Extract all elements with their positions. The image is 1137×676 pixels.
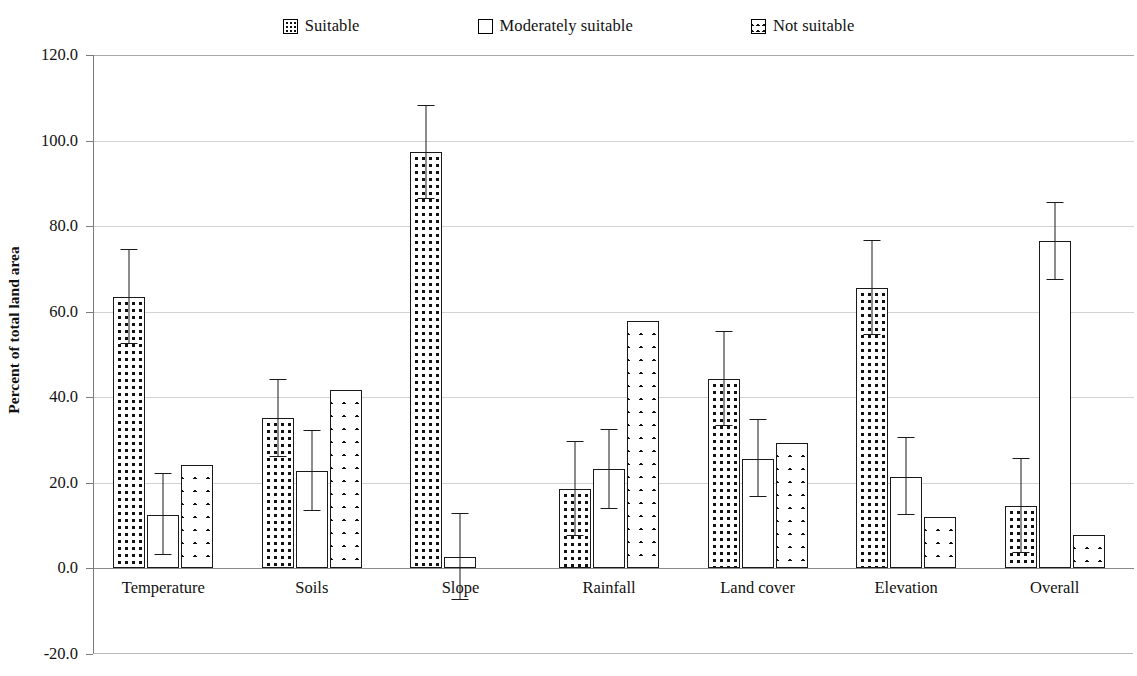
- error-bar-cap-lower: [749, 496, 766, 497]
- error-bar-cap-lower: [155, 554, 172, 555]
- error-bar: [147, 567, 179, 568]
- bar-group: [687, 55, 836, 568]
- error-bar-cap-upper: [864, 240, 881, 241]
- bar: [410, 152, 442, 568]
- bar-group: [984, 55, 1133, 568]
- error-bar-cap-lower: [121, 343, 138, 344]
- error-bar: [113, 567, 145, 568]
- x-axis-tick-label: Rainfall: [582, 578, 635, 598]
- legend-item-not-suitable: Not suitable: [751, 16, 854, 36]
- error-bar-stem: [311, 431, 312, 511]
- y-axis-tick-label: 40.0: [0, 387, 78, 407]
- error-bar-stem: [574, 442, 575, 536]
- chart-figure: Suitable Moderately suitable Not suitabl…: [0, 0, 1137, 676]
- error-bar: [410, 567, 442, 568]
- empty-square-icon: [478, 19, 493, 34]
- legend-item-moderately-suitable: Moderately suitable: [478, 16, 633, 36]
- error-bar-cap-lower: [715, 425, 732, 426]
- error-bar-cap-lower: [418, 198, 435, 199]
- error-bar-cap-lower: [864, 334, 881, 335]
- x-axis-tick-label: Land cover: [720, 578, 795, 598]
- x-axis-tick-label: Soils: [295, 578, 328, 598]
- y-axis-tick-label: 60.0: [0, 302, 78, 322]
- legend-label: Not suitable: [773, 16, 854, 36]
- y-axis-tick-mark: [86, 483, 93, 484]
- x-axis-tick-label: Elevation: [875, 578, 938, 598]
- bar-group: [242, 55, 391, 568]
- x-axis-labels: TemperatureSoilsSlopeRainfallLand coverE…: [93, 578, 1133, 604]
- bar-group: [93, 55, 242, 568]
- crosshatch-square-icon: [751, 19, 766, 34]
- x-axis-tick-label: Temperature: [122, 578, 205, 598]
- bar: [1073, 535, 1105, 568]
- error-bar-stem: [426, 106, 427, 198]
- error-bar-cap-upper: [303, 430, 320, 431]
- error-bar-cap-upper: [155, 473, 172, 474]
- error-bar-stem: [1020, 459, 1021, 553]
- error-bar: [559, 567, 591, 568]
- error-bar-stem: [872, 241, 873, 335]
- x-axis-tick-label: Overall: [1030, 578, 1079, 598]
- error-bar-cap-lower: [600, 508, 617, 509]
- y-axis-tick-mark: [86, 654, 93, 655]
- bar: [924, 517, 956, 568]
- dotted-square-icon: [283, 19, 298, 34]
- y-axis-tick-mark: [86, 397, 93, 398]
- error-bar-cap-upper: [1012, 458, 1029, 459]
- zero-line: [94, 568, 1134, 569]
- legend-item-suitable: Suitable: [283, 16, 360, 36]
- error-bar: [262, 567, 294, 568]
- bar: [1039, 241, 1071, 568]
- legend-label: Suitable: [305, 16, 360, 36]
- y-axis-tick-mark: [86, 55, 93, 56]
- error-bar-cap-upper: [566, 441, 583, 442]
- error-bar: [708, 567, 740, 568]
- error-bar-cap-lower: [1012, 552, 1029, 553]
- y-axis-tick-label: -20.0: [0, 644, 78, 664]
- error-bar-cap-upper: [715, 331, 732, 332]
- error-bar-cap-upper: [121, 249, 138, 250]
- error-bar-cap-lower: [1046, 279, 1063, 280]
- error-bar-cap-upper: [269, 379, 286, 380]
- bar: [627, 321, 659, 568]
- error-bar-cap-upper: [1046, 202, 1063, 203]
- bar: [181, 465, 213, 568]
- bar-groups: [93, 55, 1133, 568]
- x-axis-tick-label: Slope: [442, 578, 480, 598]
- error-bar: [742, 567, 774, 568]
- bar: [776, 443, 808, 568]
- legend-label: Moderately suitable: [500, 16, 633, 36]
- y-axis-tick-label: 120.0: [0, 45, 78, 65]
- bar-group: [836, 55, 985, 568]
- bar: [330, 390, 362, 568]
- error-bar-cap-upper: [749, 419, 766, 420]
- error-bar-cap-lower: [303, 510, 320, 511]
- error-bar-stem: [608, 430, 609, 510]
- error-bar: [1005, 567, 1037, 568]
- y-axis-tick-mark: [86, 312, 93, 313]
- error-bar-cap-upper: [418, 105, 435, 106]
- error-bar: [1039, 567, 1071, 568]
- error-bar: [296, 567, 328, 568]
- y-axis-tick-label: 100.0: [0, 131, 78, 151]
- y-axis-tick-mark: [86, 141, 93, 142]
- error-bar: [856, 567, 888, 568]
- error-bar: [890, 567, 922, 568]
- error-bar-cap-lower: [566, 535, 583, 536]
- error-bar-cap-lower: [898, 514, 915, 515]
- error-bar: [444, 567, 476, 568]
- error-bar-stem: [757, 420, 758, 497]
- error-bar-stem: [129, 250, 130, 344]
- bar-group: [390, 55, 539, 568]
- error-bar-stem: [1054, 203, 1055, 280]
- y-axis-tick-label: 20.0: [0, 473, 78, 493]
- error-bar-stem: [277, 380, 278, 457]
- error-bar-cap-upper: [898, 437, 915, 438]
- error-bar-stem: [906, 438, 907, 515]
- error-bar-stem: [723, 332, 724, 426]
- y-axis-tick-label: 0.0: [0, 558, 78, 578]
- y-axis-tick-label: 80.0: [0, 216, 78, 236]
- error-bar-stem: [163, 474, 164, 555]
- error-bar-cap-lower: [269, 456, 286, 457]
- chart-legend: Suitable Moderately suitable Not suitabl…: [0, 12, 1137, 40]
